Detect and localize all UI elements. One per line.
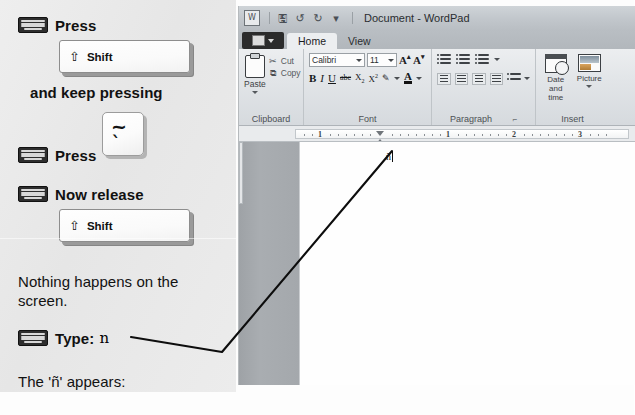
chevron-down-icon <box>388 59 394 62</box>
redo-icon[interactable]: ↻ <box>311 11 325 25</box>
step-label-type: Type: <box>55 331 94 346</box>
tab-view[interactable]: View <box>337 33 382 50</box>
copy-icon: ⧉ <box>268 69 278 78</box>
font-family-value: Calibri <box>312 56 336 65</box>
decrease-indent-icon[interactable] <box>437 53 452 66</box>
line-spacing-icon[interactable] <box>507 72 520 85</box>
group-insert: Date and time Picture Insert <box>535 49 609 125</box>
step-label-now-release: Now release <box>55 187 144 202</box>
group-paragraph: Paragraph ⌐ <box>431 49 535 125</box>
chevron-down-icon[interactable] <box>416 77 422 80</box>
group-label-insert: Insert <box>536 115 609 124</box>
ruler[interactable]: 1 1 <box>239 126 635 142</box>
align-right-icon[interactable] <box>472 73 486 85</box>
save-icon[interactable]: 🖫 <box>275 11 289 25</box>
group-font: Calibri 11 A▴ A▾ B I U abc X2 X <box>303 49 431 125</box>
document-icon <box>252 35 265 46</box>
bullets-icon[interactable] <box>475 53 490 66</box>
align-left-icon[interactable] <box>437 73 451 85</box>
calendar-clock-icon <box>545 54 567 73</box>
step-label-press-2: Press <box>55 148 96 163</box>
copy-label: Copy <box>281 69 301 78</box>
text-cursor <box>392 151 393 162</box>
copy-button[interactable]: ⧉ Copy <box>268 69 301 78</box>
strikethrough-button[interactable]: abc <box>340 74 351 82</box>
document-gutter <box>239 142 299 385</box>
chevron-down-icon <box>268 39 274 43</box>
grave-accent-symbol: ` <box>112 135 121 152</box>
document-typed-text: ñ <box>386 151 391 162</box>
keyboard-icon <box>18 330 48 346</box>
step-release-shift: Now release <box>18 186 144 202</box>
dialog-launcher-icon[interactable]: ⌐ <box>512 115 517 124</box>
note-n-appears: The 'ñ' appears: <box>18 372 125 391</box>
tab-home[interactable]: Home <box>287 33 337 50</box>
keyboard-icon <box>18 186 48 202</box>
align-center-icon[interactable] <box>455 73 469 85</box>
underline-button[interactable]: U <box>328 73 336 84</box>
font-size-select[interactable]: 11 <box>367 53 397 67</box>
superscript-button[interactable]: X2 <box>369 73 379 84</box>
date-and-time-label-line2: time <box>548 93 563 102</box>
undo-icon[interactable]: ↺ <box>293 11 307 25</box>
instruction-panel: Press ⇧ Shift and keep pressing ~ ` Pres… <box>0 0 236 392</box>
font-family-select[interactable]: Calibri <box>309 53 365 67</box>
step-press-shift: Press <box>18 17 96 33</box>
ruler-number: 2 <box>512 130 516 140</box>
paste-label: Paste <box>244 80 266 89</box>
note-nothing-happens-line1: Nothing happens on the <box>18 272 178 291</box>
cut-button[interactable]: ✂ Cut <box>268 57 301 66</box>
align-justify-icon[interactable] <box>490 73 504 85</box>
group-label-paragraph: Paragraph ⌐ <box>432 115 535 124</box>
type-value-n: n <box>99 329 109 347</box>
font-color-button[interactable]: A <box>404 72 412 84</box>
subscript-button[interactable]: X2 <box>355 73 365 84</box>
chevron-down-icon <box>586 85 592 88</box>
scrollbar-thumb[interactable] <box>239 142 243 204</box>
grow-font-button[interactable]: A▴ <box>399 54 411 66</box>
group-label-clipboard: Clipboard <box>239 115 303 124</box>
shift-key-label-2: Shift <box>87 220 113 232</box>
step-label-press: Press <box>55 18 96 33</box>
document-area: ñ <box>239 142 635 385</box>
italic-button[interactable]: I <box>320 73 324 84</box>
shrink-font-button[interactable]: A▾ <box>413 54 425 66</box>
font-size-value: 11 <box>370 56 379 65</box>
chevron-down-icon <box>356 59 362 62</box>
toolbar-divider <box>269 12 270 24</box>
chevron-down-icon[interactable] <box>494 58 500 61</box>
toolbar-divider <box>352 12 353 24</box>
wordpad-app-icon[interactable]: W <box>244 10 260 26</box>
window-title: Document - WordPad <box>364 12 470 24</box>
chevron-down-icon[interactable] <box>524 77 530 80</box>
increase-indent-icon[interactable] <box>456 53 471 66</box>
clipboard-icon <box>245 55 265 78</box>
ribbon-tab-row: Home View <box>239 30 635 49</box>
tilde-key-graphic: ~ ` <box>102 112 144 156</box>
text-highlight-icon[interactable]: ✎ <box>382 74 390 83</box>
document-page[interactable]: ñ <box>299 142 635 385</box>
first-line-indent-marker[interactable] <box>376 131 384 136</box>
shift-key-graphic-1: ⇧ Shift <box>59 40 190 73</box>
note-nothing-happens-line2: screen. <box>18 291 68 310</box>
picture-icon <box>578 54 601 72</box>
chevron-down-icon[interactable] <box>394 77 400 80</box>
ribbon: Paste ✂ Cut ⧉ Copy Clipboard <box>239 49 635 126</box>
step-press-tilde: Press <box>18 147 96 163</box>
ruler-strip[interactable]: 1 1 <box>295 129 629 139</box>
shift-arrow-icon: ⇧ <box>69 50 80 63</box>
group-clipboard: Paste ✂ Cut ⧉ Copy Clipboard <box>239 49 303 125</box>
keyboard-icon <box>18 147 48 163</box>
cut-label: Cut <box>281 57 294 66</box>
chevron-down-icon[interactable]: ▾ <box>329 11 343 25</box>
scissors-icon: ✂ <box>268 57 278 66</box>
ruler-number: 1 <box>446 130 450 140</box>
shift-key-graphic-2: ⇧ Shift <box>59 209 190 242</box>
file-menu-button[interactable] <box>242 32 284 49</box>
note-keep-pressing: and keep pressing <box>30 83 163 102</box>
bold-button[interactable]: B <box>309 73 316 84</box>
group-label-font: Font <box>304 115 431 124</box>
wordpad-title-bar: W 🖫 ↺ ↻ ▾ Document - WordPad <box>239 6 635 30</box>
ruler-number: 3 <box>578 130 582 140</box>
